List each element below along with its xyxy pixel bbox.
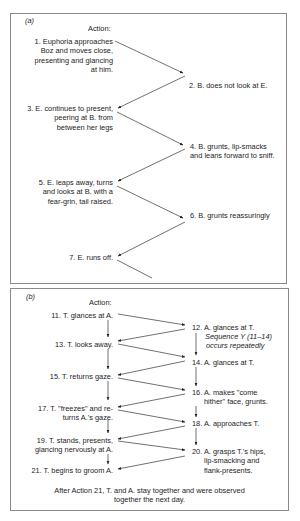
action-20-line: lip-smacking and: [192, 456, 266, 465]
action-5: 5. E. leaps away, turns and looks at B. …: [39, 178, 113, 206]
panel-a-heading: Action:: [88, 24, 111, 33]
panel-a-label: (a): [25, 16, 34, 25]
action-20-line: flank-presents.: [192, 466, 266, 475]
action-5-line: and looks at B. with a: [39, 187, 113, 196]
action-17: 17. T. "freezes" and re- turns A.'s gaze…: [38, 404, 113, 423]
action-19-line: glancing nervously at A.: [35, 445, 113, 454]
action-13: 13. T. looks away.: [55, 340, 113, 349]
action-4-line: and leans forward to sniff.: [190, 151, 275, 160]
action-14: 14. A. glances at T.: [192, 358, 254, 367]
action-12-line: 12. A. glances at T.: [192, 323, 254, 332]
action-20: 20. A. grasps T.'s hips, lip-smacking an…: [192, 447, 266, 475]
sequence-note-line: Sequence Y (11–14): [205, 332, 272, 341]
action-1-line: at him.: [35, 65, 113, 74]
action-14-line: 14. A. glances at T.: [192, 358, 254, 367]
action-16: 16. A. makes "come hither" face, grunts.: [192, 388, 268, 407]
action-1: 1. Euphoria approaches Boz and moves clo…: [35, 37, 113, 74]
action-3-line: 3. E. continues to present,: [27, 104, 113, 113]
footer-note-line: After Action 21, T. and A. stay together…: [10, 486, 289, 495]
action-13-line: 13. T. looks away.: [55, 340, 113, 349]
action-6-line: 6. B. grunts reassuringly: [190, 211, 270, 220]
sequence-note: Sequence Y (11–14) occurs repeatedly: [205, 332, 272, 351]
action-15-line: 15. T. returns gaze.: [50, 372, 113, 381]
sequence-note-line: occurs repeatedly: [205, 341, 272, 350]
action-4: 4. B. grunts, lip-smacks and leans forwa…: [190, 142, 275, 161]
action-16-line: hither" face, grunts.: [192, 397, 268, 406]
action-1-line: presenting and glancing: [35, 56, 113, 65]
panel-b-label: (b): [26, 292, 35, 301]
action-4-line: 4. B. grunts, lip-smacks: [190, 142, 275, 151]
footer-note: After Action 21, T. and A. stay together…: [10, 486, 289, 505]
panel-b-heading: Action:: [89, 298, 112, 307]
action-17-line: turns A.'s gaze.: [38, 413, 113, 422]
action-17-line: 17. T. "freezes" and re-: [38, 404, 113, 413]
action-6: 6. B. grunts reassuringly: [190, 211, 270, 220]
action-11: 11. T. glances at A.: [51, 311, 113, 320]
action-7-line: 7. E. runs off.: [69, 253, 113, 262]
action-5-line: 5. E. leaps away, turns: [39, 178, 113, 187]
action-19: 19. T. stands, presents, glancing nervou…: [35, 436, 113, 455]
action-12: 12. A. glances at T.: [192, 323, 254, 332]
action-16-line: 16. A. makes "come: [192, 388, 268, 397]
action-3-line: between her legs: [27, 123, 113, 132]
action-20-line: 20. A. grasps T.'s hips,: [192, 447, 266, 456]
action-18-line: 18. A. approaches T.: [192, 419, 259, 428]
action-1-line: Boz and moves close,: [35, 46, 113, 55]
action-21: 21. T. begins to groom A.: [31, 466, 113, 475]
action-3-line: peering at B. from: [27, 113, 113, 122]
action-21-line: 21. T. begins to groom A.: [31, 466, 113, 475]
action-1-line: 1. Euphoria approaches: [35, 37, 113, 46]
action-15: 15. T. returns gaze.: [50, 372, 113, 381]
action-19-line: 19. T. stands, presents,: [35, 436, 113, 445]
action-3: 3. E. continues to present, peering at B…: [27, 104, 113, 132]
action-11-line: 11. T. glances at A.: [51, 311, 113, 320]
action-5-line: fear-grin, tail raised.: [39, 197, 113, 206]
action-18: 18. A. approaches T.: [192, 419, 259, 428]
footer-note-line: together the next day.: [10, 495, 289, 504]
action-2: 2. B. does not look at E.: [189, 81, 267, 90]
action-7: 7. E. runs off.: [69, 253, 113, 262]
action-2-line: 2. B. does not look at E.: [189, 81, 267, 90]
